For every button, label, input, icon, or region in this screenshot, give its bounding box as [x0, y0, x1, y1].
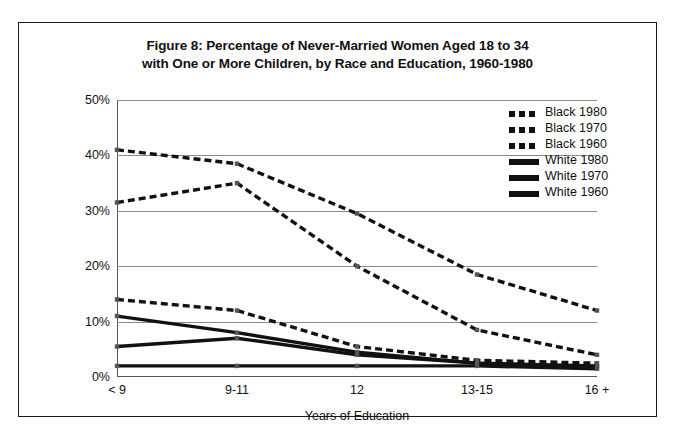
legend-label: Black 1960 [545, 137, 607, 151]
data-point-marker [115, 344, 119, 348]
data-point-marker [115, 314, 119, 318]
y-tick-label: 30% [85, 204, 110, 218]
y-tick-label: 0% [92, 370, 110, 384]
data-point-marker [235, 181, 239, 185]
data-point-marker [235, 330, 239, 334]
chart-title: Figure 8: Percentage of Never-Married Wo… [19, 37, 656, 73]
legend-swatch-icon [509, 170, 539, 182]
x-tick-label: 12 [350, 383, 364, 397]
data-point-marker [115, 364, 119, 368]
legend-item-black-1980[interactable]: Black 1980 [509, 104, 608, 119]
data-point-marker [355, 264, 359, 268]
y-tick-label: 10% [85, 315, 110, 329]
data-point-marker [355, 353, 359, 357]
legend-swatch-icon [509, 122, 539, 134]
figure-frame: Figure 8: Percentage of Never-Married Wo… [18, 22, 657, 417]
legend-swatch-icon [509, 154, 539, 166]
x-axis-title: Years of Education [117, 409, 597, 423]
data-point-marker [475, 272, 479, 276]
legend-item-black-1960[interactable]: Black 1960 [509, 136, 608, 151]
data-point-marker [355, 344, 359, 348]
data-point-marker [355, 211, 359, 215]
legend-item-black-1970[interactable]: Black 1970 [509, 120, 608, 135]
data-point-marker [595, 366, 599, 370]
legend-swatch-icon [509, 138, 539, 150]
data-point-marker [475, 364, 479, 368]
chart-legend: Black 1980Black 1970Black 1960White 1980… [509, 104, 608, 199]
data-point-marker [235, 308, 239, 312]
data-point-marker [355, 364, 359, 368]
series-line-black-1970 [117, 183, 597, 355]
legend-label: White 1960 [545, 185, 608, 199]
legend-swatch-icon [509, 106, 539, 118]
legend-label: White 1970 [545, 169, 608, 183]
x-tick-label: < 9 [108, 383, 126, 397]
data-point-marker [115, 200, 119, 204]
y-tick-label: 20% [85, 259, 110, 273]
chart-title-line-1: Figure 8: Percentage of Never-Married Wo… [19, 37, 656, 55]
x-tick-label: 13-15 [461, 383, 493, 397]
legend-swatch-icon [509, 186, 539, 198]
legend-label: Black 1980 [545, 105, 607, 119]
data-point-marker [235, 162, 239, 166]
y-tick-label: 40% [85, 148, 110, 162]
chart-title-line-2: with One or More Children, by Race and E… [19, 55, 656, 73]
legend-label: White 1980 [545, 153, 608, 167]
data-point-marker [475, 328, 479, 332]
legend-item-white-1980[interactable]: White 1980 [509, 152, 608, 167]
x-tick-label: 9-11 [225, 383, 249, 397]
y-tick-label: 50% [85, 93, 110, 107]
data-point-marker [235, 364, 239, 368]
legend-item-white-1960[interactable]: White 1960 [509, 184, 608, 199]
data-point-marker [115, 148, 119, 152]
data-point-marker [235, 336, 239, 340]
data-point-marker [115, 297, 119, 301]
data-point-marker [595, 353, 599, 357]
x-tick-label: 16 + [585, 383, 610, 397]
data-point-marker [595, 308, 599, 312]
legend-item-white-1970[interactable]: White 1970 [509, 168, 608, 183]
legend-label: Black 1970 [545, 121, 607, 135]
